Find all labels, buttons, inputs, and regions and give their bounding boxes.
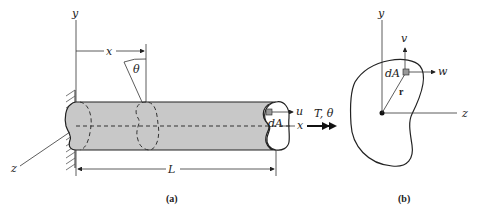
y-axis-label-a: y: [71, 7, 79, 20]
v-label: v: [401, 32, 408, 45]
angle-label-a: θ: [133, 63, 140, 76]
x-distance-label: x: [106, 45, 113, 58]
w-label: w: [438, 65, 448, 78]
panel-a: y x θ u dA x T, θ: [10, 7, 337, 205]
element-dA-b: [403, 69, 409, 75]
element-dA-a: [266, 109, 272, 115]
caption-a: (a): [166, 193, 178, 205]
z-axis-label-b: z: [461, 107, 468, 120]
radius-label: r: [399, 86, 404, 97]
twist-angle-arc: [124, 59, 146, 62]
u-label: u: [296, 105, 303, 118]
dA-label-a: dA: [268, 117, 283, 130]
dA-label-b: dA: [385, 67, 400, 80]
z-axis-a: [20, 132, 70, 166]
torque-arrow: [307, 122, 337, 130]
length-label: L: [167, 163, 175, 176]
z-axis-label-a: z: [10, 162, 17, 175]
caption-b: (b): [398, 193, 410, 205]
panel-b: y z r v dA w (b): [350, 7, 468, 205]
y-axis-label-b: y: [377, 7, 385, 20]
torque-label: T, θ: [314, 107, 334, 120]
x-axis-label-a: x: [297, 119, 304, 132]
torsion-diagram: y x θ u dA x T, θ: [0, 0, 477, 218]
